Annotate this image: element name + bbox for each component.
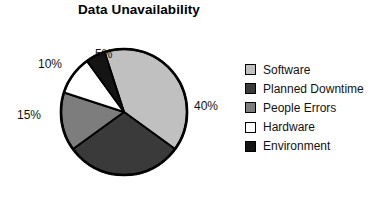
legend-label-planned-downtime: Planned Downtime — [263, 82, 364, 96]
legend-swatch-software — [245, 64, 256, 75]
slice-label-people-errors: 15% — [17, 108, 41, 122]
legend-label-software: Software — [263, 63, 310, 77]
legend-label-environment: Environment — [263, 139, 330, 153]
legend-swatch-hardware — [245, 122, 256, 133]
pie-graphic — [58, 46, 190, 178]
legend-item-people-errors: People Errors — [245, 98, 390, 117]
chart-legend: Software Planned Downtime People Errors … — [245, 60, 390, 156]
legend-label-hardware: Hardware — [263, 120, 315, 134]
legend-swatch-planned-downtime — [245, 83, 256, 94]
legend-item-environment: Environment — [245, 137, 390, 156]
slice-label-environment: 5% — [95, 47, 112, 61]
legend-swatch-environment — [245, 141, 256, 152]
legend-item-software: Software — [245, 60, 390, 79]
pie-chart-figure: Data Unavailability 40% 30% 15% 10% 5% S… — [0, 0, 392, 200]
pie-plot-area: 40% 30% 15% 10% 5% — [0, 20, 240, 200]
legend-item-planned-downtime: Planned Downtime — [245, 79, 390, 98]
slice-label-hardware: 10% — [38, 57, 62, 71]
page-title: Data Unavailability — [44, 2, 234, 18]
slice-label-software: 40% — [194, 99, 218, 113]
legend-label-people-errors: People Errors — [263, 101, 336, 115]
legend-item-hardware: Hardware — [245, 118, 390, 137]
legend-swatch-people-errors — [245, 102, 256, 113]
